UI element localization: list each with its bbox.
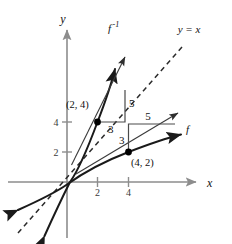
x-tick-label-2: 2 xyxy=(95,187,100,198)
tangent-line-f-inverse xyxy=(72,57,126,165)
identity-line-label: y = x xyxy=(177,23,201,35)
x-axis-label: x xyxy=(206,176,213,190)
tangent-line-f xyxy=(76,113,178,174)
curve-label-f: f xyxy=(186,123,191,135)
curve-label-f-inverse: f -1 xyxy=(108,20,119,35)
rise-label-triangle-4-2: 3 xyxy=(119,134,125,146)
x-tick-label-4: 4 xyxy=(126,187,131,198)
run-label-triangle-2-4: 3 xyxy=(108,123,114,135)
point-label-4-2: (4, 2) xyxy=(131,157,154,169)
y-tick-label-4: 4 xyxy=(54,117,59,128)
point-marker-4-2 xyxy=(125,149,132,156)
inverse-function-figure: y x 2 4 2 4 f f -1 y = x (2, 4) (4, 2) 5… xyxy=(0,0,232,244)
point-marker-2-4 xyxy=(94,119,101,126)
curve-label-f-inverse-exponent: -1 xyxy=(113,20,120,29)
curve-f xyxy=(18,135,181,211)
run-label-triangle-4-2: 5 xyxy=(145,110,151,122)
y-axis-label: y xyxy=(59,12,66,26)
axes-group xyxy=(8,30,196,238)
identity-line-y-equals-x xyxy=(18,47,182,233)
point-label-2-4: (2, 4) xyxy=(66,99,89,111)
y-tick-label-2: 2 xyxy=(54,147,59,158)
rise-label-triangle-2-4: 5 xyxy=(129,97,135,109)
